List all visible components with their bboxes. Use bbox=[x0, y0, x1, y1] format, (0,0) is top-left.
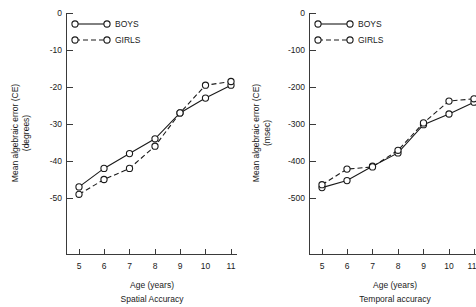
x-tick-label: 7 bbox=[127, 261, 132, 271]
panel-caption: Temporal accuracy bbox=[359, 294, 431, 304]
x-axis-title: Age (years) bbox=[130, 280, 174, 290]
y-axis-title: Mean algebraic error (CE) bbox=[251, 84, 261, 182]
y-tick-label: -400 bbox=[288, 156, 305, 166]
legend-label-girls: GIRLS bbox=[358, 35, 384, 45]
y-tick-label: -200 bbox=[288, 82, 305, 92]
x-axis-ticks bbox=[322, 249, 474, 255]
y-tick-label: -40 bbox=[50, 156, 63, 166]
series-boys-markers bbox=[319, 99, 476, 191]
x-tick-label: 6 bbox=[345, 261, 350, 271]
legend-label-boys: BOYS bbox=[358, 19, 382, 29]
y-tick-label: -100 bbox=[288, 45, 305, 55]
panel-temporal-accuracy: 0 -100 -200 -300 -400 -500 5 6 7 8 9 10 … bbox=[238, 0, 476, 307]
x-tick-label: 10 bbox=[444, 261, 454, 271]
y-axis-title-units: (degrees) bbox=[21, 115, 31, 152]
x-tick-label: 11 bbox=[227, 261, 236, 271]
x-tick-label: 9 bbox=[421, 261, 426, 271]
x-tick-label: 8 bbox=[153, 261, 158, 271]
chart-spatial-accuracy: 0 -10 -20 -30 -40 -50 5 6 7 8 9 10 11 bbox=[0, 0, 238, 307]
y-tick-label: -50 bbox=[50, 193, 63, 203]
y-axis-title: Mean algebraic error (CE) bbox=[10, 84, 20, 182]
y-tick-label: -20 bbox=[50, 82, 63, 92]
x-tick-label: 5 bbox=[320, 261, 325, 271]
x-tick-label: 8 bbox=[396, 261, 401, 271]
y-tick-label: -500 bbox=[288, 193, 305, 203]
x-axis-ticks bbox=[79, 249, 231, 255]
y-tick-label: -300 bbox=[288, 119, 305, 129]
x-tick-label: 7 bbox=[370, 261, 375, 271]
series-girls-markers bbox=[319, 96, 476, 188]
y-axis-title-units: (msec) bbox=[262, 120, 272, 146]
panel-caption: Spatial Accuracy bbox=[121, 294, 185, 304]
x-axis-title: Age (years) bbox=[373, 280, 417, 290]
series-boys bbox=[319, 99, 476, 191]
legend: BOYS GIRLS bbox=[315, 19, 384, 45]
x-tick-label: 5 bbox=[77, 261, 82, 271]
series-boys bbox=[76, 82, 234, 190]
y-tick-label: -30 bbox=[50, 119, 63, 129]
axis-frame bbox=[310, 13, 476, 255]
legend: BOYS GIRLS bbox=[72, 19, 141, 45]
y-tick-label: 0 bbox=[57, 8, 62, 18]
figure-two-panel-line-charts: 0 -10 -20 -30 -40 -50 5 6 7 8 9 10 11 bbox=[0, 0, 476, 307]
axis-frame bbox=[67, 13, 237, 255]
x-tick-label: 11 bbox=[468, 261, 476, 271]
chart-temporal-accuracy: 0 -100 -200 -300 -400 -500 5 6 7 8 9 10 … bbox=[238, 0, 476, 307]
y-tick-label: -10 bbox=[50, 45, 63, 55]
panel-spatial-accuracy: 0 -10 -20 -30 -40 -50 5 6 7 8 9 10 11 bbox=[0, 0, 238, 307]
series-girls bbox=[319, 96, 476, 188]
x-tick-label: 10 bbox=[201, 261, 211, 271]
legend-label-boys: BOYS bbox=[115, 19, 139, 29]
x-tick-label: 6 bbox=[102, 261, 107, 271]
series-boys-markers bbox=[76, 82, 234, 190]
y-tick-label: 0 bbox=[300, 8, 305, 18]
legend-label-girls: GIRLS bbox=[115, 35, 141, 45]
x-tick-label: 9 bbox=[178, 261, 183, 271]
